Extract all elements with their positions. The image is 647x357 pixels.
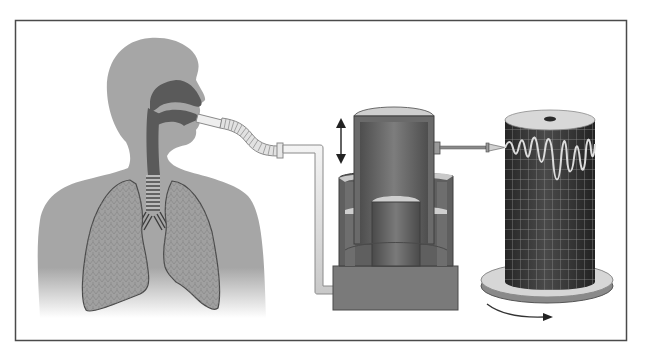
diagram-canvas xyxy=(0,0,647,357)
inner-cylinder xyxy=(372,202,420,266)
pharynx xyxy=(147,108,161,175)
tank-inner-wall-right xyxy=(437,182,447,266)
spirometer-diagram xyxy=(0,0,647,357)
spirometer-base xyxy=(333,266,458,310)
stylus-mount xyxy=(434,142,440,154)
stylus-arm xyxy=(440,146,486,149)
stylus-collar xyxy=(486,143,489,152)
drum-spindle-hole xyxy=(544,116,556,121)
hose-coupling xyxy=(277,143,283,158)
